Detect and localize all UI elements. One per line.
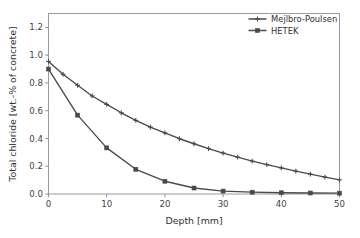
y-tick-label: 0.8: [29, 78, 43, 88]
data-point-marker: [279, 191, 283, 195]
x-axis-title: Depth [mm]: [165, 215, 222, 226]
x-tick-label: 50: [334, 199, 345, 209]
data-point-marker: [250, 190, 254, 194]
data-point-marker: [134, 167, 138, 171]
y-tick-label: 0.6: [29, 106, 43, 116]
data-point-marker: [221, 189, 225, 193]
legend-label: HETEK: [271, 26, 299, 36]
y-tick-label: 0.0: [29, 189, 43, 199]
legend-label: Mejlbro-Poulsen: [271, 14, 337, 24]
y-tick-label: 0.4: [29, 134, 43, 144]
x-tick-label: 10: [101, 199, 112, 209]
figure-background: [0, 0, 360, 238]
legend-marker-square: [256, 29, 260, 33]
data-point-marker: [308, 191, 312, 195]
x-tick-label: 0: [46, 199, 51, 209]
x-tick-label: 20: [159, 199, 170, 209]
y-tick-label: 0.2: [29, 161, 43, 171]
y-axis-title: Total chloride [wt.-% of concrete]: [7, 26, 18, 182]
data-point-marker: [76, 113, 80, 117]
x-tick-label: 40: [276, 199, 287, 209]
data-point-marker: [192, 186, 196, 190]
data-point-marker: [338, 191, 342, 195]
chart-canvas: 0.00.20.40.60.81.01.2 01020304050 Depth …: [0, 0, 360, 238]
y-tick-label: 1.2: [29, 22, 43, 32]
y-tick-label: 1.0: [29, 50, 43, 60]
data-point-marker: [163, 179, 167, 183]
data-point-marker: [47, 67, 51, 71]
data-point-marker: [105, 146, 109, 150]
x-tick-label: 30: [218, 199, 229, 209]
chart-figure: 0.00.20.40.60.81.01.2 01020304050 Depth …: [0, 0, 360, 238]
